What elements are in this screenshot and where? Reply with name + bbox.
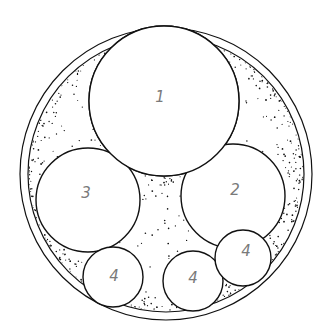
stipple-dot xyxy=(148,184,149,185)
stipple-dot xyxy=(255,85,257,87)
stipple-dot xyxy=(151,234,153,236)
stipple-dot xyxy=(142,199,143,200)
stipple-dot xyxy=(186,240,187,241)
stipple-dot xyxy=(281,244,282,245)
stipple-dot xyxy=(160,184,161,185)
stipple-dot xyxy=(269,237,271,239)
stipple-dot xyxy=(230,285,231,286)
stipple-dot xyxy=(283,221,285,223)
stipple-dot xyxy=(295,211,296,212)
stipple-dot xyxy=(267,86,269,88)
stipple-dot xyxy=(55,116,56,117)
stipple-dot xyxy=(227,291,229,293)
stipple-dot xyxy=(33,207,34,208)
stipple-dot xyxy=(272,259,273,260)
stipple-dot xyxy=(145,291,146,292)
stipple-dot xyxy=(42,125,44,127)
stipple-dot xyxy=(276,245,278,247)
stipple-dot xyxy=(266,83,267,84)
stipple-dot xyxy=(288,125,289,126)
stipple-dot xyxy=(166,181,167,182)
stipple-dot xyxy=(168,228,170,230)
stipple-dot xyxy=(177,251,178,252)
stipple-dot xyxy=(44,137,46,139)
stipple-dot xyxy=(40,163,42,165)
stipple-dot xyxy=(228,286,230,288)
stipple-dot xyxy=(283,115,284,116)
stipple-dot xyxy=(229,62,230,63)
stipple-dot xyxy=(44,234,46,236)
stipple-dot xyxy=(224,296,225,297)
label-2: 2 xyxy=(230,181,240,199)
stipple-dot xyxy=(217,300,218,301)
stipple-dot xyxy=(52,100,53,101)
stipple-dot xyxy=(287,140,288,141)
stipple-dot xyxy=(52,106,53,107)
stipple-dot xyxy=(57,101,58,102)
stipple-dot xyxy=(277,154,278,155)
stipple-dot xyxy=(167,196,169,198)
stipple-dot xyxy=(254,71,255,72)
stipple-dot xyxy=(263,116,264,117)
stipple-dot xyxy=(298,148,299,149)
stipple-dot xyxy=(269,235,270,236)
stipple-dot xyxy=(31,188,32,189)
stipple-dot xyxy=(37,158,39,160)
stipple-dot xyxy=(43,160,44,161)
stipple-dot xyxy=(178,215,179,216)
stipple-dot xyxy=(246,140,247,141)
stipple-dot xyxy=(144,298,146,300)
stipple-dot xyxy=(65,260,66,261)
stipple-dot xyxy=(266,116,267,117)
stipple-dot xyxy=(50,245,51,246)
stipple-dot xyxy=(153,309,154,310)
stipple-dot xyxy=(145,232,147,234)
stipple-dot xyxy=(31,171,32,172)
stipple-dot xyxy=(287,172,289,174)
stipple-dot xyxy=(302,177,303,178)
stipple-dot xyxy=(143,303,145,305)
stipple-dot xyxy=(294,158,295,159)
stipple-dot xyxy=(233,56,235,58)
stipple-dot xyxy=(32,142,33,143)
stipple-dot xyxy=(299,180,301,182)
stipple-dot xyxy=(299,174,300,175)
stipple-dot xyxy=(62,253,63,254)
stipple-dot xyxy=(234,289,236,291)
stipple-dot xyxy=(43,123,45,125)
stipple-dot xyxy=(245,68,246,69)
stipple-dot xyxy=(77,80,78,81)
stipple-dot xyxy=(296,205,298,207)
stipple-dot xyxy=(292,214,294,216)
stipple-dot xyxy=(34,161,35,162)
stipple-dot xyxy=(274,94,275,95)
stipple-dot xyxy=(69,260,71,262)
stipple-dot xyxy=(234,66,235,67)
stipple-dot xyxy=(284,155,286,157)
stipple-dot xyxy=(31,195,32,196)
stipple-dot xyxy=(131,304,132,305)
stipple-dot xyxy=(68,258,69,259)
stipple-dot xyxy=(83,65,84,66)
stipple-dot xyxy=(164,223,166,225)
stipple-dot xyxy=(38,149,40,151)
stipple-dot xyxy=(262,151,263,152)
stipple-dot xyxy=(56,112,58,114)
stipple-dot xyxy=(157,229,159,231)
stipple-dot xyxy=(80,71,81,72)
stipple-dot xyxy=(259,88,261,90)
stipple-dot xyxy=(294,200,296,202)
stipple-dot xyxy=(81,281,82,282)
stipple-dot xyxy=(238,289,239,290)
stipple-dot xyxy=(162,306,163,307)
stipple-dot xyxy=(290,122,291,123)
stipple-dot xyxy=(154,297,156,299)
stipple-dot xyxy=(270,98,271,99)
stipple-dot xyxy=(81,262,82,263)
stipple-dot xyxy=(59,249,60,250)
stipple-dot xyxy=(180,176,181,177)
stipple-dot xyxy=(270,94,272,96)
stipple-dot xyxy=(77,100,78,101)
stipple-dot xyxy=(77,73,78,74)
stipple-dot xyxy=(30,188,32,190)
